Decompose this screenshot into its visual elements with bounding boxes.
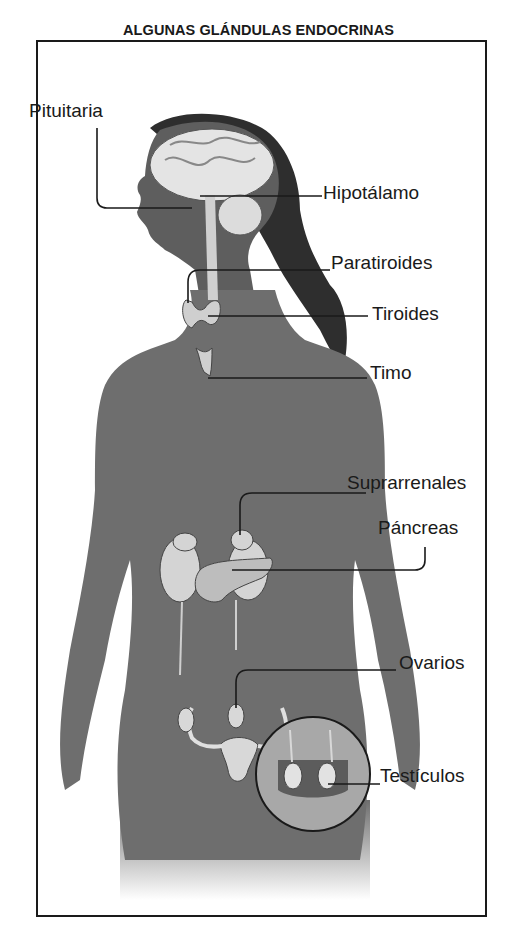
label-testiculos: Testículos <box>380 765 464 787</box>
label-paratiroides: Paratiroides <box>331 252 432 274</box>
label-tiroides: Tiroides <box>372 303 439 325</box>
label-ovarios: Ovarios <box>399 652 464 674</box>
figure-title: ALGUNAS GLÁNDULAS ENDOCRINAS <box>0 22 517 38</box>
label-pancreas: Páncreas <box>378 517 458 539</box>
label-hipotalamo: Hipotálamo <box>323 182 419 204</box>
label-pituitaria: Pituitaria <box>29 100 103 122</box>
label-timo: Timo <box>370 362 412 384</box>
label-suprarrenales: Suprarrenales <box>347 472 466 494</box>
